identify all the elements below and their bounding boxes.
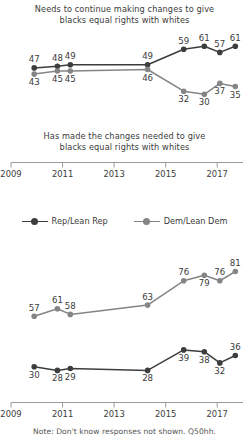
data-point-label: 32 bbox=[214, 366, 225, 376]
data-point bbox=[68, 366, 74, 372]
data-point bbox=[217, 278, 223, 284]
axis-tick-label: 2009 bbox=[0, 169, 21, 179]
data-point bbox=[217, 81, 223, 87]
data-point-label: 81 bbox=[230, 258, 241, 268]
chart-legend: Rep/Lean Rep Dem/Lean Dem bbox=[0, 216, 249, 236]
axis-tick-label: 2015 bbox=[155, 169, 176, 179]
chart-plot-top: 47484949596157614345454632303735 bbox=[0, 26, 249, 118]
legend-marker-dem-icon bbox=[134, 217, 160, 226]
data-point-label: 30 bbox=[29, 370, 40, 380]
data-point-label: 76 bbox=[178, 267, 189, 277]
data-point bbox=[31, 65, 37, 71]
axis-tick-label: 2009 bbox=[0, 409, 21, 419]
data-point-label: 28 bbox=[142, 373, 153, 383]
data-point bbox=[202, 43, 208, 49]
legend-item-rep[interactable]: Rep/Lean Rep bbox=[22, 216, 108, 226]
legend-marker-rep-icon bbox=[22, 217, 48, 226]
chart-plot-bottom: 57615863767976813028292839383236 bbox=[0, 250, 249, 390]
axis-tick-label: 2013 bbox=[103, 409, 124, 419]
data-point bbox=[68, 312, 74, 318]
data-point bbox=[202, 92, 208, 98]
chart-title-bottom: Has made the changes needed to give blac… bbox=[0, 131, 249, 153]
legend-item-dem[interactable]: Dem/Lean Dem bbox=[134, 216, 228, 226]
data-point bbox=[145, 302, 151, 308]
data-point bbox=[145, 67, 151, 73]
axis-tick-label: 2017 bbox=[207, 169, 228, 179]
data-point-label: 49 bbox=[142, 51, 153, 61]
x-axis-bottom-svg: 20092011201320152017 bbox=[0, 400, 249, 422]
data-point bbox=[145, 368, 151, 374]
data-point-label: 28 bbox=[52, 373, 63, 383]
x-axis-bottom: 20092011201320152017 bbox=[0, 400, 249, 422]
data-point-label: 37 bbox=[214, 86, 225, 96]
chart-note: Note: Don't know responses not shown. Q5… bbox=[0, 427, 249, 436]
data-point-label: 61 bbox=[230, 33, 241, 43]
axis-tick-label: 2015 bbox=[155, 409, 176, 419]
axis-tick-label: 2011 bbox=[52, 169, 73, 179]
data-point bbox=[55, 368, 61, 374]
chart-svg-bottom: 57615863767976813028292839383236 bbox=[0, 250, 249, 390]
data-point-label: 39 bbox=[178, 353, 189, 363]
data-point-label: 61 bbox=[199, 33, 210, 43]
data-point-label: 57 bbox=[29, 303, 40, 313]
data-point-label: 32 bbox=[178, 94, 189, 104]
data-point bbox=[202, 272, 208, 278]
data-point-label: 38 bbox=[199, 355, 210, 365]
data-point-label: 63 bbox=[142, 292, 153, 302]
data-point-label: 48 bbox=[52, 53, 63, 63]
x-axis-top-svg: 20092011201320152017 bbox=[0, 160, 249, 182]
data-point-label: 30 bbox=[199, 97, 210, 107]
data-point-label: 43 bbox=[29, 77, 40, 87]
data-point-label: 46 bbox=[142, 73, 153, 83]
data-point bbox=[202, 349, 208, 355]
chart-svg-top: 47484949596157614345454632303735 bbox=[0, 26, 249, 118]
x-axis-top: 20092011201320152017 bbox=[0, 160, 249, 182]
data-point bbox=[31, 314, 37, 320]
legend-label-rep: Rep/Lean Rep bbox=[52, 216, 108, 226]
data-point-label: 47 bbox=[29, 54, 40, 64]
data-point bbox=[233, 269, 239, 275]
axis-tick-label: 2013 bbox=[103, 169, 124, 179]
data-point bbox=[217, 360, 223, 366]
chart-title-top: Needs to continue making changes to give… bbox=[0, 4, 249, 26]
legend-label-dem: Dem/Lean Dem bbox=[164, 216, 228, 226]
data-point bbox=[68, 62, 74, 68]
data-point-label: 61 bbox=[52, 295, 63, 305]
chart-title-top-line2: blacks equal rights with whites bbox=[0, 15, 249, 26]
chart-title-bottom-line1: Has made the changes needed to give bbox=[0, 131, 249, 142]
data-point-label: 36 bbox=[230, 342, 241, 352]
data-point bbox=[68, 68, 74, 74]
data-point-label: 59 bbox=[178, 36, 189, 46]
data-point bbox=[31, 71, 37, 77]
data-point-label: 35 bbox=[230, 90, 241, 100]
data-point bbox=[181, 88, 187, 94]
data-point bbox=[217, 50, 223, 56]
data-point bbox=[55, 306, 61, 312]
data-point-label: 79 bbox=[199, 278, 210, 288]
axis-tick-label: 2017 bbox=[207, 409, 228, 419]
data-point bbox=[55, 68, 61, 74]
data-point-label: 45 bbox=[65, 74, 76, 84]
data-point bbox=[31, 364, 37, 370]
data-point bbox=[233, 353, 239, 359]
axis-tick-label: 2011 bbox=[52, 409, 73, 419]
data-point bbox=[181, 278, 187, 284]
data-point bbox=[181, 47, 187, 53]
data-point-label: 49 bbox=[65, 51, 76, 61]
chart-title-bottom-line2: blacks equal rights with whites bbox=[0, 142, 249, 153]
chart-title-top-line1: Needs to continue making changes to give bbox=[0, 4, 249, 15]
data-point-label: 29 bbox=[65, 372, 76, 382]
data-point-label: 76 bbox=[214, 267, 225, 277]
data-point-label: 58 bbox=[65, 301, 76, 311]
data-point bbox=[233, 43, 239, 49]
data-point-label: 57 bbox=[214, 39, 225, 49]
data-point bbox=[181, 347, 187, 353]
data-point-label: 45 bbox=[52, 74, 63, 84]
data-point bbox=[233, 84, 239, 90]
